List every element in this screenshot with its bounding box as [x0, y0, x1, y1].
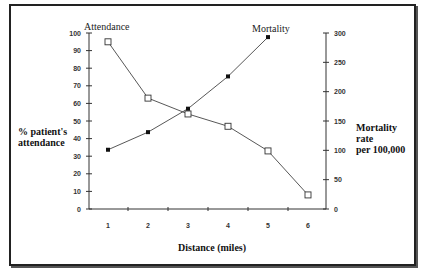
x-tick-label: 3 [186, 222, 190, 229]
y-left-tick-label: 40 [73, 135, 81, 142]
y-right-tick-label: 0 [334, 206, 338, 213]
x-tick-label: 5 [266, 222, 270, 229]
mortality-series-label: Mortality [252, 23, 290, 34]
y-right-tick-label: 150 [334, 118, 346, 125]
series-layer [105, 35, 311, 198]
y-axis-left-label-line2: attendance [18, 137, 65, 148]
attendance-series-label: Attendance [84, 21, 130, 32]
mortality-marker [226, 74, 230, 78]
mortality-marker [266, 35, 270, 39]
y-left-tick-label: 30 [73, 153, 81, 160]
y-right-tick-label: 200 [334, 88, 346, 95]
y-right-tick-label: 250 [334, 59, 346, 66]
attendance-line [108, 42, 308, 195]
y-axis-left-label-line1: % patient's [18, 126, 67, 137]
x-tick-label: 6 [306, 222, 310, 229]
y-axis-right-label-line1: Mortality [356, 122, 397, 133]
attendance-marker [225, 123, 231, 129]
y-left-tick-label: 70 [73, 82, 81, 89]
attendance-marker [265, 148, 271, 154]
mortality-marker [106, 148, 110, 152]
y-left-tick-label: 80 [73, 65, 81, 72]
attendance-marker [145, 95, 151, 101]
y-left-tick-label: 90 [73, 47, 81, 54]
attendance-marker [105, 39, 111, 45]
y-right-tick-label: 300 [334, 30, 346, 37]
x-axis-label: Distance (miles) [178, 242, 246, 254]
x-tick-label: 1 [106, 222, 110, 229]
y-left-tick-label: 20 [73, 170, 81, 177]
y-left-tick-label: 0 [77, 206, 81, 213]
mortality-line [108, 37, 268, 150]
axes: 0102030405060708090100050100150200250300… [69, 30, 345, 230]
y-right-tick-label: 100 [334, 147, 346, 154]
dual-axis-line-chart: 0102030405060708090100050100150200250300… [0, 0, 426, 270]
x-tick-label: 4 [226, 222, 230, 229]
y-left-tick-label: 100 [69, 30, 81, 37]
attendance-marker [305, 192, 311, 198]
y-left-tick-label: 50 [73, 118, 81, 125]
x-tick-label: 2 [146, 222, 150, 229]
attendance-marker [185, 111, 191, 117]
y-axis-right-label-line3: per 100,000 [356, 144, 405, 155]
mortality-marker [146, 130, 150, 134]
y-left-tick-label: 10 [73, 188, 81, 195]
mortality-marker [186, 107, 190, 111]
y-axis-right-label-line2: rate [356, 133, 374, 144]
y-right-tick-label: 50 [334, 176, 342, 183]
y-left-tick-label: 60 [73, 100, 81, 107]
